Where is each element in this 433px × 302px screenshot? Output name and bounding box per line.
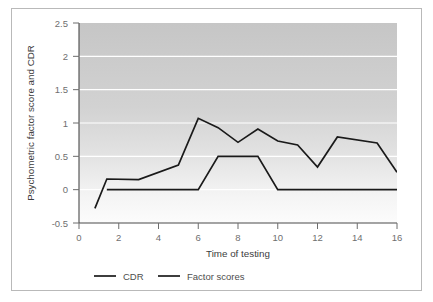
legend-label-cdr: CDR [123, 271, 144, 282]
legend: CDR Factor scores [94, 271, 245, 282]
y-tick-label: 1 [63, 118, 68, 129]
x-tick-label: 6 [196, 232, 201, 243]
x-axis-title: Time of testing [206, 248, 270, 259]
x-tick-label: 10 [272, 232, 283, 243]
y-tick-label: 1.5 [55, 84, 68, 95]
x-tick-label: 2 [116, 232, 121, 243]
x-tick-label: 16 [392, 232, 403, 243]
y-tick-label: 2.5 [55, 18, 68, 29]
y-tick-label: 0 [63, 184, 68, 195]
y-tick-label: 0.5 [55, 151, 68, 162]
x-tick-label: 4 [156, 232, 161, 243]
y-tick-label: -0.5 [52, 218, 68, 229]
y-tick-label: 2 [63, 51, 68, 62]
figure-panel: 2.5 2 1.5 1 0.5 0 -0.5 0 2 4 6 8 10 12 [11, 8, 422, 291]
legend-label-factor-scores: Factor scores [187, 271, 245, 282]
y-axis: 2.5 2 1.5 1 0.5 0 -0.5 [52, 18, 79, 229]
y-axis-title: Psychometric factor score and CDR [25, 45, 36, 201]
line-chart: 2.5 2 1.5 1 0.5 0 -0.5 0 2 4 6 8 10 12 [12, 9, 421, 290]
x-axis: 0 2 4 6 8 10 12 14 16 [76, 223, 402, 243]
x-tick-label: 12 [312, 232, 323, 243]
x-tick-label: 8 [235, 232, 240, 243]
x-tick-label: 14 [352, 232, 363, 243]
x-tick-label: 0 [76, 232, 81, 243]
